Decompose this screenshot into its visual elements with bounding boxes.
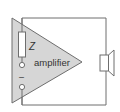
impedance-resistor bbox=[19, 32, 26, 57]
input-terminal-top bbox=[19, 62, 24, 67]
minus-label: – bbox=[19, 72, 24, 82]
input-terminal-bottom bbox=[19, 84, 24, 89]
loudspeaker-icon bbox=[100, 50, 114, 76]
impedance-label: Z bbox=[28, 41, 36, 52]
circuit-diagram: Z amplifier – bbox=[0, 0, 120, 112]
amplifier-label: amplifier bbox=[34, 57, 70, 68]
